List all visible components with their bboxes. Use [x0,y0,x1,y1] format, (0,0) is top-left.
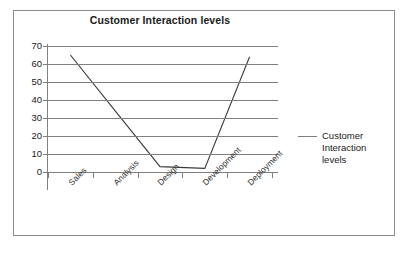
x-axis-tick-2 [138,173,139,178]
y-axis-label-0: 0 [16,167,42,177]
x-axis-tick-1 [93,173,94,178]
y-axis-tick-40 [43,100,48,101]
x-axis-tick-4 [227,173,228,178]
y-axis-label-40: 40 [16,95,42,105]
gridline-60 [48,64,278,65]
legend-label-line2: Interaction levels [322,142,366,165]
gridline-10 [48,154,278,155]
chart-title: Customer Interaction levels [40,14,280,26]
y-axis-tick-10 [43,154,48,155]
y-axis-tick-70 [43,46,48,47]
x-axis-tick-5 [272,173,273,178]
y-axis-tick-20 [43,136,48,137]
y-axis-tick-30 [43,118,48,119]
legend-label: Customer Interaction levels [322,130,390,166]
y-axis-label-20: 20 [16,131,42,141]
y-axis-label-70: 70 [16,41,42,51]
y-axis-label-60: 60 [16,59,42,69]
y-axis-label-50: 50 [16,77,42,87]
gridline-40 [48,100,278,101]
gridline-70 [48,46,278,47]
y-axis-label-30: 30 [16,113,42,123]
y-axis-label-10: 10 [16,149,42,159]
legend-line-swatch [298,136,317,137]
y-axis-tick-50 [43,82,48,83]
gridline-50 [48,82,278,83]
x-axis-tick-3 [182,173,183,178]
chart-container: Customer Interaction levels 706050403020… [0,0,408,256]
x-axis-tick-0 [48,173,49,178]
legend-label-line1: Customer [322,130,363,141]
chart-legend: Customer Interaction levels [298,130,390,166]
y-axis-tick-labels: 706050403020100 [14,0,42,256]
y-axis-line [47,44,48,190]
gridline-20 [48,136,278,137]
y-axis-tick-60 [43,64,48,65]
gridline-30 [48,118,278,119]
